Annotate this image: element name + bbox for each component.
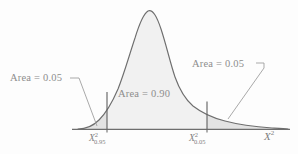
leader-line-right <box>228 63 264 119</box>
tick-label-lower-critical-value: X20.95 <box>89 133 105 143</box>
density-fill-group <box>78 11 288 129</box>
tick-left-superscript: 2 <box>95 131 98 138</box>
center-area-annotation: Area = 0.90 <box>118 88 170 99</box>
left-area-annotation: Area = 0.05 <box>10 72 62 83</box>
right-area-annotation: Area = 0.05 <box>192 58 244 69</box>
axis-title-superscript: 2 <box>271 129 275 137</box>
tick-label-upper-critical-value: X20.05 <box>189 133 205 143</box>
tick-left-subscript: 0.95 <box>94 138 105 145</box>
tick-right-superscript: 2 <box>195 131 198 138</box>
center-region-fill <box>78 11 288 129</box>
x-axis-title: X2 <box>264 130 274 142</box>
chi-square-distribution-figure: Area = 0.05 Area = 0.90 Area = 0.05 X20.… <box>0 0 298 154</box>
leader-line-left <box>70 78 97 126</box>
tick-right-subscript: 0.05 <box>194 138 205 145</box>
axis-title-symbol: X <box>264 130 271 142</box>
